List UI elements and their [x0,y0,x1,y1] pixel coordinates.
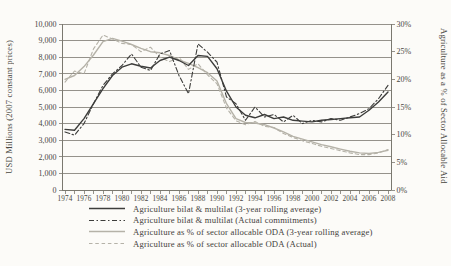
x-tick-label: 1978 [96,195,111,203]
legend-line-dashed-light-icon [88,239,126,248]
y-left-tick-label: 7,000 [39,70,57,79]
y-right-tick-label: 10% [397,130,412,139]
y-left-tick-label: 4,000 [39,119,57,128]
x-tick-label: 1986 [172,195,187,203]
y-right-tick-label: 15% [397,103,412,112]
x-tick-label: 1996 [267,195,282,203]
x-tick-label: 1984 [153,195,168,203]
chart-figure: USD Millions (2007 constant prices) 01,0… [0,0,451,266]
x-tick-label: 1994 [248,195,263,203]
legend-label: Agriculture bilat & multilat (Actual com… [133,215,317,225]
x-tick-label: 2008 [381,195,396,203]
series-line-3 [65,35,388,155]
y-left-tick-label: 0 [53,186,57,195]
y-left-tick-label: 10,000 [35,20,57,29]
y-left-tick-label: 6,000 [39,86,57,95]
x-tick-label: 1982 [134,195,149,203]
legend-line-solid-light-icon [88,227,126,236]
legend-line-solid-dark-icon [88,204,126,213]
y-left-tick-label: 1,000 [39,169,57,178]
y-right-tick-label: 25% [397,47,412,56]
legend-item: Agriculture as % of sector allocable ODA… [88,226,373,238]
x-tick-label: 2000 [305,195,320,203]
x-tick-label: 1998 [286,195,301,203]
x-tick-label: 1990 [210,195,225,203]
x-tick-label: 2002 [324,195,339,203]
y-right-tick-label: 30% [397,20,412,29]
y-right-tick-label: 20% [397,75,412,84]
x-tick-label: 1974 [58,195,73,203]
y-left-tick-label: 8,000 [39,53,57,62]
chart-legend: Agriculture bilat & multilat (3-year rol… [88,203,373,249]
left-axis-title: USD Millions (2007 constant prices) [2,24,16,190]
x-tick-label: 1988 [191,195,206,203]
legend-item: Agriculture bilat & multilat (Actual com… [88,215,373,227]
y-right-tick-label: 0% [397,186,408,195]
legend-line-dash-dot-dark-icon [88,216,126,225]
right-axis-title: Agriculture as a % of Sector Allocable A… [437,8,450,204]
legend-item: Agriculture bilat & multilat (3-year rol… [88,203,373,215]
legend-item: Agriculture as % of sector allocable ODA… [88,238,373,250]
y-left-tick-label: 2,000 [39,153,57,162]
x-tick-label: 1992 [229,195,244,203]
y-left-tick-label: 5,000 [39,103,57,112]
series-line-0 [65,56,388,131]
x-tick-label: 1976 [77,195,92,203]
x-tick-label: 2006 [362,195,377,203]
x-tick-label: 2004 [343,195,358,203]
legend-label: Agriculture bilat & multilat (3-year rol… [133,204,321,214]
y-left-tick-label: 3,000 [39,136,57,145]
legend-label: Agriculture as % of sector allocable ODA… [133,227,373,237]
y-right-tick-label: 5% [397,158,408,167]
legend-label: Agriculture as % of sector allocable ODA… [133,239,317,249]
x-tick-label: 1980 [115,195,130,203]
y-left-tick-label: 9,000 [39,36,57,45]
